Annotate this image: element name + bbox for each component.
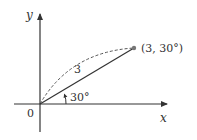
angle-label: 30° [70,91,90,104]
y-axis-label: y [25,8,33,22]
point-label: (3, 30°) [141,42,183,55]
x-axis-label: x [160,111,167,125]
length-label: 3 [74,63,81,76]
polar-coordinate-diagram: y x 0 3 30° (3, 30°) [0,0,197,140]
origin-label: 0 [27,107,34,120]
point-marker [132,46,136,50]
angle-arc-icon [65,95,67,105]
